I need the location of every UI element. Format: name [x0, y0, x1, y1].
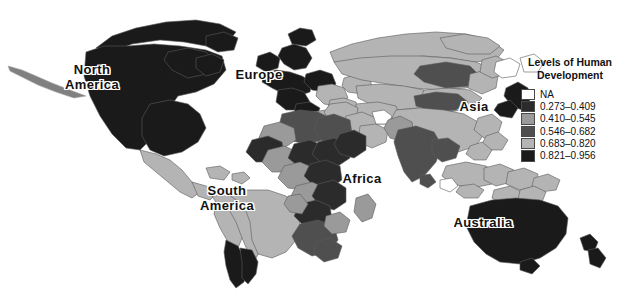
legend-swatch-band-4: [521, 138, 535, 150]
legend-label-band-4: 0.683–0.820: [540, 138, 596, 149]
legend-label-band-2: 0.410–0.545: [540, 113, 596, 124]
legend-swatch-band-2: [521, 113, 535, 125]
legend-entry-list: NA 0.273–0.409 0.410–0.545 0.546–0.682 0…: [521, 88, 619, 162]
legend-swatch-band-3: [521, 126, 535, 138]
legend-label-band-5: 0.821–0.956: [540, 150, 596, 161]
legend-swatch-band-5: [521, 150, 535, 162]
legend-entry-band-2: 0.410–0.545: [521, 113, 619, 125]
map-legend: Levels of Human Development NA 0.273–0.4…: [521, 56, 619, 162]
legend-entry-band-4: 0.683–0.820: [521, 137, 619, 149]
legend-swatch-band-1: [521, 101, 535, 113]
legend-entry-band-1: 0.273–0.409: [521, 101, 619, 113]
legend-swatch-na: [521, 89, 535, 101]
legend-entry-band-3: 0.546–0.682: [521, 125, 619, 137]
world-map-figure: .b { stroke:#5a5a5a; stroke-width:0.6; }…: [0, 0, 621, 293]
legend-label-band-3: 0.546–0.682: [540, 126, 596, 137]
legend-entry-band-5: 0.821–0.956: [521, 150, 619, 162]
legend-title: Levels of Human Development: [521, 56, 619, 82]
legend-entry-na: NA: [521, 88, 619, 100]
legend-label-band-1: 0.273–0.409: [540, 101, 596, 112]
legend-label-na: NA: [540, 89, 554, 100]
